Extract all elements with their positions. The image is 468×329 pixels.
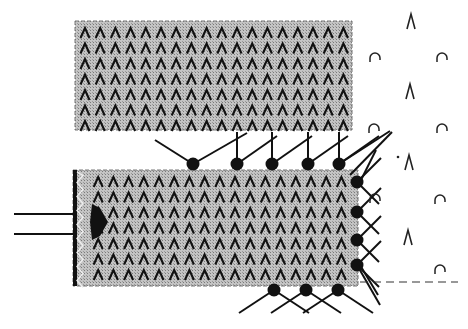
receptor-ball-bottom — [300, 284, 313, 297]
lambda-symbol — [406, 84, 414, 99]
cap-symbol — [369, 124, 379, 133]
membrane-band — [73, 170, 77, 286]
receptor-ball-right — [351, 234, 364, 247]
lambda-symbol — [405, 155, 413, 170]
receptor-ball-top — [266, 158, 279, 171]
lambda-symbol — [407, 14, 415, 29]
free-symbols — [360, 14, 458, 282]
cap-symbol — [435, 195, 445, 204]
cap-symbol — [437, 53, 447, 62]
input-stimulus — [14, 204, 108, 240]
cap-symbol — [437, 124, 447, 133]
dot-symbol — [397, 156, 400, 159]
cap-symbol — [435, 265, 445, 274]
receptor-stalk — [360, 265, 378, 295]
diagram-canvas — [0, 0, 468, 329]
lambda-symbol — [404, 230, 412, 245]
receptor-ball-right — [351, 206, 364, 219]
receptor-ball-top — [187, 158, 200, 171]
receptor-ball-top — [231, 158, 244, 171]
receptor-ball-bottom — [268, 284, 281, 297]
receptor-stalk — [155, 140, 193, 164]
receptor-ball-bottom — [332, 284, 345, 297]
receptor-ball-top — [302, 158, 315, 171]
cap-symbol — [370, 53, 380, 62]
